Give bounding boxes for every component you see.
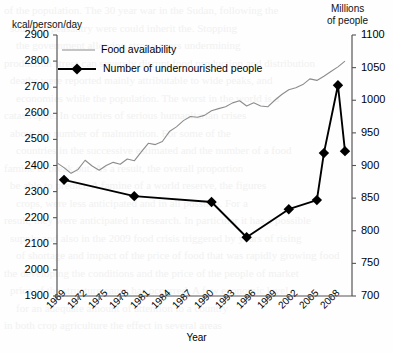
series-marker-diamond <box>333 80 343 90</box>
legend-label-food-availability: Food availability <box>101 43 176 55</box>
legend-swatch-undernourished-marker <box>71 63 82 74</box>
series-line-food-availability <box>57 61 345 173</box>
series-marker-diamond <box>59 175 69 185</box>
series-line-undernourished <box>64 85 345 237</box>
plot-area <box>0 0 393 353</box>
chart-container: of the population. The 30 year war in th… <box>0 0 393 353</box>
series-marker-diamond <box>312 195 322 205</box>
series-marker-diamond <box>284 204 294 214</box>
series-marker-diamond <box>340 146 350 156</box>
series-marker-diamond <box>319 148 329 158</box>
legend-label-undernourished: Number of undernourished people <box>103 62 262 74</box>
series-marker-diamond <box>129 191 139 201</box>
